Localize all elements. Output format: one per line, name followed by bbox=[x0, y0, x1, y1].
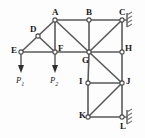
node-label-G: G bbox=[82, 56, 89, 65]
load-label-p1: P1 bbox=[16, 76, 24, 87]
joint-H bbox=[120, 50, 124, 54]
node-label-F: F bbox=[58, 44, 64, 53]
load-label-p2: P2 bbox=[50, 76, 58, 87]
node-label-J: J bbox=[126, 77, 131, 86]
load-label-p2-sub: 2 bbox=[55, 81, 58, 87]
joint-B bbox=[87, 18, 91, 22]
member-G-J bbox=[89, 52, 122, 83]
member-C-G bbox=[89, 20, 122, 52]
joint-K bbox=[86, 115, 90, 119]
support-l-hatch-4 bbox=[127, 121, 132, 124]
load-p2-arrowhead bbox=[52, 65, 58, 73]
node-label-E: E bbox=[11, 46, 17, 55]
node-label-I: I bbox=[79, 77, 83, 86]
joint-I bbox=[86, 81, 90, 85]
node-label-K: K bbox=[79, 111, 86, 120]
member-K-J bbox=[88, 83, 122, 117]
joint-C bbox=[120, 18, 124, 22]
node-label-C: C bbox=[119, 8, 126, 17]
load-p1-arrowhead bbox=[18, 65, 24, 73]
load-arrow-p2 bbox=[52, 54, 58, 73]
joint-L bbox=[120, 115, 124, 119]
node-label-L: L bbox=[120, 122, 126, 131]
support-c-hatch-4 bbox=[127, 24, 132, 27]
node-label-B: B bbox=[86, 8, 92, 17]
truss-diagram: A B C D E F G H I J K L P1 P2 bbox=[0, 0, 145, 138]
node-label-D: D bbox=[30, 25, 37, 34]
node-label-A: A bbox=[52, 8, 59, 17]
member-D-F bbox=[38, 36, 55, 52]
member-A-D bbox=[38, 20, 55, 36]
joint-J bbox=[120, 81, 124, 85]
load-arrow-p1 bbox=[18, 54, 24, 73]
joint-D bbox=[36, 34, 40, 38]
support-l-hatch-2 bbox=[127, 113, 132, 116]
support-l-hatch-1 bbox=[127, 109, 132, 112]
support-c-hatch-1 bbox=[127, 12, 132, 15]
member-D-E bbox=[21, 36, 38, 52]
joint-A bbox=[53, 18, 57, 22]
support-c-hatch-2 bbox=[127, 16, 132, 19]
joint-E bbox=[19, 50, 23, 54]
truss-svg-canvas bbox=[0, 0, 145, 138]
joint-F bbox=[53, 50, 57, 54]
support-c-hatch-3 bbox=[127, 20, 132, 23]
load-label-p1-sub: 1 bbox=[21, 81, 24, 87]
node-label-H: H bbox=[125, 44, 132, 53]
joint-G bbox=[87, 50, 91, 54]
support-l-hatch-3 bbox=[127, 117, 132, 120]
